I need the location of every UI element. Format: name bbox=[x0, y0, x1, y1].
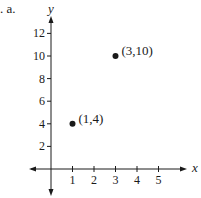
data-point-label: (1,4) bbox=[79, 112, 104, 125]
y-axis-arrow-up-icon bbox=[49, 16, 54, 23]
x-tick-label: 2 bbox=[88, 174, 100, 186]
y-tick-label: 6 bbox=[25, 95, 45, 107]
y-axis-arrow-down-icon bbox=[49, 189, 54, 196]
data-point-label: (3,10) bbox=[122, 44, 153, 57]
x-tick-label: 1 bbox=[67, 174, 79, 186]
y-tick-label: 4 bbox=[25, 118, 45, 130]
data-point bbox=[70, 121, 76, 127]
y-tick-label: 2 bbox=[25, 140, 45, 152]
y-tick-label: 8 bbox=[25, 73, 45, 85]
data-point bbox=[113, 53, 119, 59]
x-tick-label: 5 bbox=[153, 174, 165, 186]
y-tick-label: 12 bbox=[25, 27, 45, 39]
x-tick-label: 4 bbox=[131, 174, 143, 186]
x-axis-arrow-left-icon bbox=[29, 167, 36, 172]
y-axis-label: y bbox=[48, 2, 54, 15]
x-tick-label: 3 bbox=[110, 174, 122, 186]
x-axis-label: x bbox=[192, 161, 198, 174]
y-tick-label: 10 bbox=[25, 50, 45, 62]
x-axis-arrow-right-icon bbox=[180, 167, 187, 172]
